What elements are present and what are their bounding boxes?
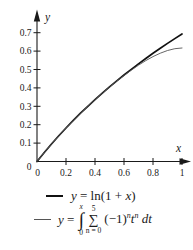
- ln-line-swatch: [46, 195, 63, 197]
- sigma-icon: ∑: [89, 213, 99, 227]
- legend-entry-series: y = x∫05∑n = 0(−1)ntn dt: [34, 203, 152, 236]
- term-dt: dt: [142, 212, 152, 227]
- x-tick-label: 0.2: [60, 168, 72, 178]
- term-exponent-n2: n: [134, 211, 138, 220]
- integral-lower-limit: 0: [79, 229, 83, 237]
- term-base: (−1): [104, 212, 127, 227]
- x-tick-label: 0.4: [89, 168, 101, 178]
- y-tick-label: 0.1: [20, 138, 32, 148]
- series-line-swatch: [34, 219, 51, 220]
- origin-x-label: 0: [35, 168, 40, 178]
- integral-icon: ∫: [79, 211, 84, 229]
- origin-y-label: 0: [27, 162, 32, 172]
- x-tick-label: 0.6: [118, 168, 130, 178]
- formula-close-paren: ): [131, 188, 135, 204]
- formula-equals: =: [64, 212, 78, 228]
- y-tick-label: 0.3: [20, 102, 32, 112]
- tick-layer: 0.10.20.30.40.50.60.70.20.40.60.81: [20, 28, 185, 178]
- series-formula: y = x∫05∑n = 0(−1)ntn dt: [58, 203, 152, 236]
- y-tick-label: 0.5: [20, 65, 32, 75]
- figure: y x 0 0 0.10.20.30.40.50.60.70.20.40.60.…: [0, 0, 193, 250]
- series-term: (−1)ntn dt: [104, 211, 152, 227]
- y-tick-label: 0.7: [20, 28, 32, 38]
- y-axis-arrow-icon: [34, 10, 40, 22]
- y-tick-label: 0.4: [20, 83, 32, 93]
- x-tick-label: 1: [180, 168, 185, 178]
- formula-ln-text: = ln(1 +: [77, 188, 126, 204]
- legend-entry-ln: y = ln(1 + x): [46, 188, 136, 204]
- curve-layer: [37, 34, 182, 162]
- sum-lower-limit: n = 0: [86, 227, 101, 235]
- x-axis-label: x: [175, 142, 182, 154]
- x-axis-arrow-icon: [180, 158, 192, 164]
- integral-group: x∫0: [79, 203, 84, 236]
- series-curve: [37, 48, 182, 162]
- y-axis-label: y: [44, 11, 51, 24]
- plot-area: y x 0 0 0.10.20.30.40.50.60.70.20.40.60.…: [0, 0, 193, 182]
- y-tick-label: 0.6: [20, 46, 32, 56]
- summation-group: 5∑n = 0: [86, 205, 101, 234]
- y-tick-label: 0.2: [20, 120, 32, 130]
- x-tick-label: 0.8: [147, 168, 159, 178]
